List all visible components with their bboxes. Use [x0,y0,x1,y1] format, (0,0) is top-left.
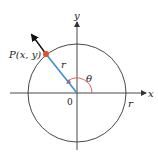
radius-label: r [61,59,67,70]
point-label: P(x, y) [8,49,41,60]
origin-label: 0 [67,97,73,107]
angle-label: θ [86,73,92,84]
point-p [43,51,49,57]
y-axis-label: y [73,10,80,21]
polar-diagram: P(x, y) r θ 0 x y r [0,0,158,161]
x-axis-label: x [148,88,154,99]
radius-x-label: r [128,98,134,109]
